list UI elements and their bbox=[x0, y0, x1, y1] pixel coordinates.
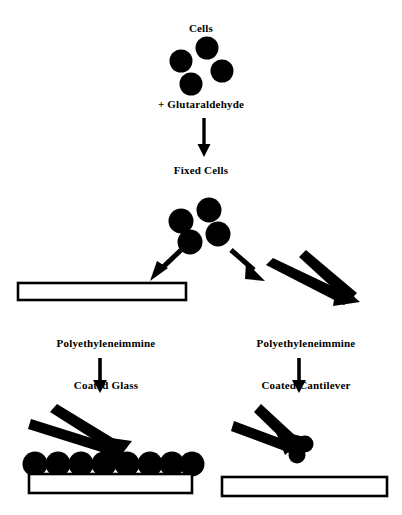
cell bbox=[196, 37, 219, 60]
figure-canvas: Cells + Glutaraldehyde Fixed Cells Polye… bbox=[0, 0, 402, 515]
cells-cluster-top bbox=[170, 37, 234, 96]
cell bbox=[289, 447, 306, 464]
cell bbox=[206, 222, 231, 247]
pei-coated-cantilever bbox=[266, 250, 360, 306]
cell bbox=[180, 73, 203, 96]
label-pei-coated-glass-line1: Polyethyleneimmine bbox=[6, 336, 206, 350]
glass-slide-bottom-left bbox=[29, 474, 192, 493]
diagram-svg bbox=[0, 0, 402, 515]
cell bbox=[170, 50, 193, 73]
arrow-branch-right bbox=[231, 250, 265, 281]
label-pei-coated-cantilever: Polyethyleneimmine Coated Cantilever bbox=[216, 308, 396, 420]
arrow-glutaraldehyde-down bbox=[198, 118, 211, 157]
cells-attached-to-cantilever bbox=[280, 434, 314, 464]
glass-slide-bottom-right bbox=[222, 477, 387, 496]
pei-coated-glass-slide bbox=[18, 283, 186, 300]
cells-cluster-fixed bbox=[169, 198, 231, 255]
label-glutaraldehyde: + Glutaraldehyde bbox=[0, 98, 402, 111]
label-pei-coated-cantilever-line2: Coated Cantilever bbox=[216, 378, 396, 392]
label-cells: Cells bbox=[0, 22, 402, 35]
label-pei-coated-glass-line2: Coated Glass bbox=[6, 378, 206, 392]
cell bbox=[211, 60, 234, 83]
arrow-branch-left bbox=[150, 250, 181, 281]
label-pei-coated-cantilever-line1: Polyethyleneimmine bbox=[216, 336, 396, 350]
cell bbox=[197, 198, 222, 223]
label-pei-coated-glass: Polyethyleneimmine Coated Glass bbox=[6, 308, 206, 420]
label-fixed-cells: Fixed Cells bbox=[0, 164, 402, 177]
